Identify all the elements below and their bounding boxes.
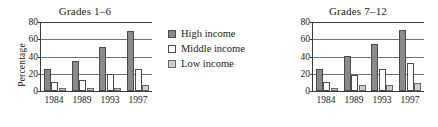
axes-frame: 020406080 xyxy=(312,22,424,92)
dark-gray-swatch-icon xyxy=(168,30,176,38)
bar-low xyxy=(142,85,149,91)
legend: High incomeMiddle incomeLow income xyxy=(168,26,272,71)
y-tick-label: 40 xyxy=(301,52,311,62)
chart-panel-grades-1-6: Grades 1–6 Percentage 020406080 19841989… xyxy=(14,0,164,127)
bar-middle xyxy=(51,82,58,91)
bar-high xyxy=(72,61,79,91)
legend-item-label: Low income xyxy=(181,58,234,69)
y-tick-label: 80 xyxy=(29,17,39,27)
bar-middle xyxy=(107,74,114,91)
chart-panel-grades-7-12: Grades 7–12 020406080 1984198919931997 xyxy=(278,0,430,127)
chart-title: Grades 1–6 xyxy=(26,5,144,17)
bar-high xyxy=(44,69,51,91)
bar-group xyxy=(371,22,393,91)
y-tick-label: 0 xyxy=(305,86,310,96)
plot-area: 020406080 1984198919931997 xyxy=(312,22,424,92)
x-tick-label: 1997 xyxy=(401,95,420,105)
axes-frame: 020406080 xyxy=(40,22,152,92)
y-tick-label: 0 xyxy=(33,86,38,96)
bar-high xyxy=(399,30,406,91)
bar-low xyxy=(359,85,366,91)
bar-groups xyxy=(41,22,152,91)
figure: Grades 1–6 Percentage 020406080 19841989… xyxy=(0,0,438,127)
bar-low xyxy=(331,88,338,91)
light-gray-swatch-icon xyxy=(168,60,176,68)
chart-title: Grades 7–12 xyxy=(298,5,418,17)
bar-groups xyxy=(313,22,424,91)
bar-group xyxy=(399,22,421,91)
bar-high xyxy=(371,44,378,91)
y-tick-label: 20 xyxy=(301,69,311,79)
bar-low xyxy=(414,83,421,91)
x-axis-ticks: 1984198919931997 xyxy=(312,92,424,105)
legend-item-label: Middle income xyxy=(181,43,245,54)
white-swatch-icon xyxy=(168,45,176,53)
bar-middle xyxy=(351,75,358,91)
y-tick-label: 20 xyxy=(29,69,39,79)
y-tick-label: 60 xyxy=(29,34,39,44)
bar-group xyxy=(316,22,338,91)
y-tick-label: 40 xyxy=(29,52,39,62)
bar-high xyxy=(344,56,351,91)
bar-low xyxy=(59,88,66,91)
legend-item-low: Low income xyxy=(168,56,272,71)
bar-group xyxy=(72,22,94,91)
bar-middle xyxy=(407,63,414,91)
bar-high xyxy=(316,69,323,91)
bar-middle xyxy=(79,80,86,91)
bar-middle xyxy=(379,69,386,91)
bar-low xyxy=(386,85,393,91)
x-tick-label: 1989 xyxy=(345,95,364,105)
y-axis-label: Percentage xyxy=(17,43,27,87)
bar-middle xyxy=(135,69,142,91)
x-tick-label: 1993 xyxy=(373,95,392,105)
x-tick-label: 1989 xyxy=(73,95,92,105)
bar-group xyxy=(344,22,366,91)
y-tick-label: 60 xyxy=(301,34,311,44)
x-tick-label: 1984 xyxy=(45,95,64,105)
bar-high xyxy=(99,47,106,91)
bar-middle xyxy=(323,82,330,91)
bar-group xyxy=(99,22,121,91)
plot-area: 020406080 1984198919931997 xyxy=(40,22,152,92)
legend-item-middle: Middle income xyxy=(168,41,272,56)
bar-high xyxy=(127,31,134,91)
legend-item-label: High income xyxy=(181,28,236,39)
x-tick-label: 1984 xyxy=(317,95,336,105)
x-tick-label: 1997 xyxy=(129,95,148,105)
bar-group xyxy=(44,22,66,91)
x-axis-ticks: 1984198919931997 xyxy=(40,92,152,105)
x-tick-label: 1993 xyxy=(101,95,120,105)
bar-low xyxy=(87,88,94,91)
y-tick-label: 80 xyxy=(301,17,311,27)
legend-item-high: High income xyxy=(168,26,272,41)
bar-low xyxy=(114,88,121,91)
bar-group xyxy=(127,22,149,91)
